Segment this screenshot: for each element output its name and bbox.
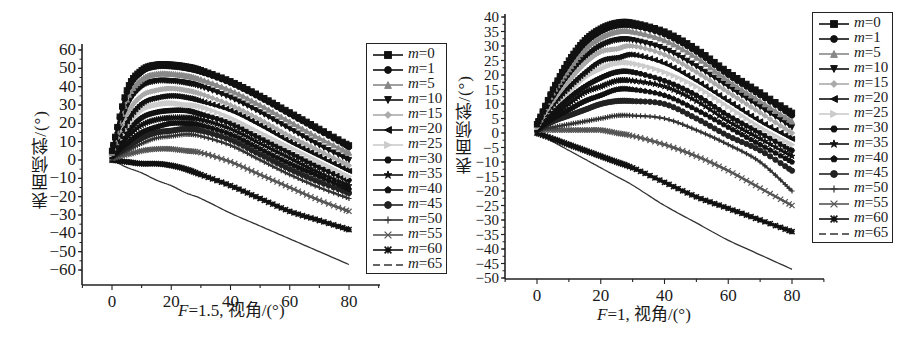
legend-item-m30: m=30 xyxy=(817,120,888,135)
legend-value: =25 xyxy=(865,105,888,120)
triangle-right-marker-icon xyxy=(817,106,851,120)
right-x-axis-label: F=1, 视角/(°) xyxy=(597,300,691,325)
legend-value: =15 xyxy=(419,106,442,121)
hexagon-marker-icon xyxy=(371,152,405,166)
legend-value: =20 xyxy=(419,121,442,136)
legend-value: =55 xyxy=(865,195,888,210)
legend-item-m30: m=30 xyxy=(371,151,442,166)
legend-value: =65 xyxy=(865,225,888,240)
legend-value: =40 xyxy=(865,150,888,165)
svg-text:−20: −20 xyxy=(49,187,76,206)
asterisk-marker-icon xyxy=(371,242,405,256)
legend-value: =15 xyxy=(865,75,888,90)
legend-value: =10 xyxy=(419,91,442,106)
diamond-marker-icon xyxy=(817,76,851,90)
svg-text:0: 0 xyxy=(108,292,117,311)
pentagon-marker-icon xyxy=(371,182,405,196)
legend-var: m xyxy=(854,15,865,30)
svg-text:80: 80 xyxy=(784,286,801,305)
legend-var: m xyxy=(854,135,865,150)
svg-text:−50: −50 xyxy=(49,242,76,261)
legend-var: m xyxy=(854,150,865,165)
circle-marker-icon xyxy=(817,166,851,180)
left-chart-panel: 表面倾斜/(°) 6050403020100−10−20−30−40−50−60… xyxy=(0,0,450,343)
right-chart-panel: 表面倾斜/(°) 4035302520151050−5−10−15−20−25−… xyxy=(450,0,904,343)
legend-value: =1 xyxy=(865,30,881,45)
legend-item-m5: m=5 xyxy=(371,76,442,91)
legend-value: =10 xyxy=(865,60,888,75)
legend-item-m60: m=60 xyxy=(817,210,888,225)
legend-var: m xyxy=(408,226,419,241)
legend-value: =45 xyxy=(865,165,888,180)
right-x-axis-var: F xyxy=(597,305,607,324)
legend-item-m40: m=40 xyxy=(817,150,888,165)
svg-text:−40: −40 xyxy=(49,223,76,242)
legend-value: =65 xyxy=(419,256,442,271)
legend-value: =1 xyxy=(419,61,435,76)
legend-var: m xyxy=(854,90,865,105)
svg-text:30: 30 xyxy=(59,95,76,114)
legend-item-m45: m=45 xyxy=(371,196,442,211)
right-legend: m=0m=1m=5m=10m=15m=20m=25m=30m=35m=40m=4… xyxy=(812,12,893,243)
circle-marker-icon xyxy=(371,197,405,211)
legend-item-m10: m=10 xyxy=(371,91,442,106)
legend-value: =25 xyxy=(419,136,442,151)
diamond-marker-icon xyxy=(371,107,405,121)
dash-marker-icon xyxy=(371,257,405,271)
left-x-axis-text: =1.5, 视角/(°) xyxy=(188,301,284,320)
legend-value: =0 xyxy=(865,15,881,30)
pentagon-marker-icon xyxy=(817,151,851,165)
legend-value: =5 xyxy=(419,76,435,91)
cross-marker-icon xyxy=(371,227,405,241)
legend-value: =35 xyxy=(419,166,442,181)
svg-text:50: 50 xyxy=(59,58,76,77)
triangle-up-marker-icon xyxy=(817,46,851,60)
legend-item-m15: m=15 xyxy=(817,75,888,90)
triangle-down-marker-icon xyxy=(817,61,851,75)
legend-var: m xyxy=(408,91,419,106)
legend-item-m1: m=1 xyxy=(371,61,442,76)
svg-text:0: 0 xyxy=(533,286,542,305)
hexagon-marker-icon xyxy=(817,121,851,135)
legend-item-m5: m=5 xyxy=(817,45,888,60)
legend-item-m10: m=10 xyxy=(817,60,888,75)
legend-var: m xyxy=(854,105,865,120)
svg-text:60: 60 xyxy=(720,286,737,305)
legend-var: m xyxy=(854,225,865,240)
series-m-65 xyxy=(537,133,792,269)
legend-var: m xyxy=(408,106,419,121)
legend-item-m55: m=55 xyxy=(371,226,442,241)
svg-text:−10: −10 xyxy=(49,168,76,187)
triangle-right-marker-icon xyxy=(371,137,405,151)
legend-value: =40 xyxy=(419,181,442,196)
legend-item-m55: m=55 xyxy=(817,195,888,210)
left-x-axis-label: F=1.5, 视角/(°) xyxy=(178,296,285,321)
svg-text:20: 20 xyxy=(59,113,76,132)
legend-value: =30 xyxy=(419,151,442,166)
legend-value: =5 xyxy=(865,45,881,60)
legend-value: =55 xyxy=(419,226,442,241)
legend-var: m xyxy=(854,75,865,90)
legend-var: m xyxy=(408,46,419,61)
legend-item-m0: m=0 xyxy=(371,46,442,61)
legend-item-m25: m=25 xyxy=(817,105,888,120)
legend-value: =0 xyxy=(419,46,435,61)
legend-item-m50: m=50 xyxy=(371,211,442,226)
svg-text:−50: −50 xyxy=(476,270,499,286)
legend-var: m xyxy=(408,166,419,181)
legend-value: =35 xyxy=(865,135,888,150)
legend-item-m50: m=50 xyxy=(817,180,888,195)
legend-var: m xyxy=(408,76,419,91)
plus-marker-icon xyxy=(371,212,405,226)
triangle-left-marker-icon xyxy=(817,91,851,105)
circle-marker-icon xyxy=(371,62,405,76)
legend-var: m xyxy=(408,151,419,166)
legend-value: =60 xyxy=(865,210,888,225)
svg-text:60: 60 xyxy=(59,40,76,59)
legend-item-m35: m=35 xyxy=(371,166,442,181)
legend-var: m xyxy=(408,196,419,211)
legend-item-m25: m=25 xyxy=(371,136,442,151)
square-marker-icon xyxy=(817,16,851,30)
legend-item-m65: m=65 xyxy=(817,225,888,240)
legend-var: m xyxy=(854,210,865,225)
